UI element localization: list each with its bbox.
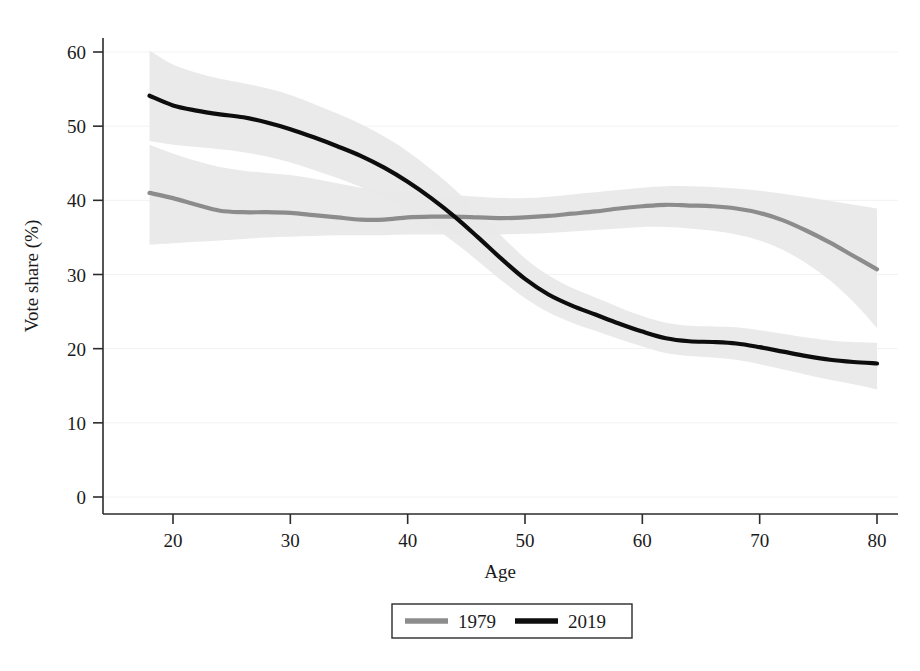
x-tick-label: 80	[868, 530, 887, 551]
y-axis-title: Vote share (%)	[21, 220, 43, 333]
y-tick-label: 20	[67, 339, 86, 360]
confidence-band-1979	[150, 145, 877, 328]
x-axis-title: Age	[484, 561, 516, 582]
x-tick-label: 20	[164, 530, 183, 551]
y-tick-label: 50	[67, 116, 86, 137]
confidence-bands	[150, 51, 877, 390]
legend-label-1979: 1979	[458, 611, 496, 632]
x-tick-label: 60	[633, 530, 652, 551]
y-tick-label: 60	[67, 42, 86, 63]
legend-label-2019: 2019	[568, 611, 606, 632]
x-tick-label: 50	[516, 530, 535, 551]
vote-share-by-age-line-chart: 0102030405060 Vote share (%) 20304050607…	[0, 0, 920, 671]
y-tick-label: 10	[67, 413, 86, 434]
x-axis-ticks: 20304050607080	[164, 514, 887, 551]
y-axis-ticks: 0102030405060	[67, 42, 103, 508]
x-tick-label: 70	[750, 530, 769, 551]
y-tick-label: 30	[67, 265, 86, 286]
chart-figure: 0102030405060 Vote share (%) 20304050607…	[0, 0, 920, 671]
x-tick-label: 30	[281, 530, 300, 551]
y-tick-label: 40	[67, 190, 86, 211]
legend: 1979 2019	[392, 604, 632, 638]
y-tick-label: 0	[77, 487, 87, 508]
x-tick-label: 40	[398, 530, 417, 551]
x-axis: 20304050607080 Age	[103, 514, 898, 582]
y-axis: 0102030405060 Vote share (%)	[21, 38, 103, 514]
